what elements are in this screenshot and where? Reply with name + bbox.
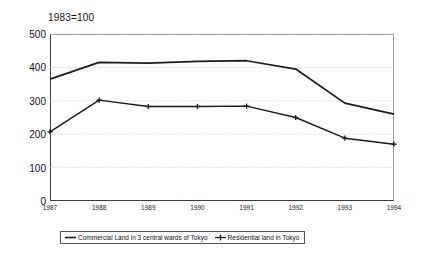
legend-item-residential: Residential land in Tokyo — [215, 234, 300, 241]
data-point-marker — [244, 104, 249, 109]
x-tick-label: 1988 — [92, 204, 106, 211]
chart-svg — [0, 0, 421, 255]
legend-label-commercial: Commercial Land in 3 central wards of To… — [78, 234, 208, 241]
x-tick-label: 1987 — [43, 204, 57, 211]
legend-item-commercial: Commercial Land in 3 central wards of To… — [65, 234, 208, 241]
data-point-marker — [342, 136, 347, 141]
x-tick-label: 1990 — [190, 204, 204, 211]
legend-line-plus-icon — [215, 234, 226, 241]
data-point-marker — [146, 104, 151, 109]
data-point-marker — [293, 115, 298, 120]
x-tick-label: 1993 — [338, 204, 352, 211]
x-tick-label: 1989 — [141, 204, 155, 211]
legend-label-residential: Residential land in Tokyo — [228, 234, 300, 241]
chart-legend: Commercial Land in 3 central wards of To… — [60, 231, 305, 244]
legend-line-icon — [65, 234, 76, 241]
data-point-marker — [195, 104, 200, 109]
x-tick-label: 1994 — [387, 204, 401, 211]
series-group — [47, 61, 396, 147]
data-point-marker — [391, 142, 396, 147]
chart-container: 1983=100 5004003002001000 19871988198919… — [0, 0, 421, 255]
x-tick-label: 1992 — [288, 204, 302, 211]
x-tick-label: 1991 — [239, 204, 253, 211]
